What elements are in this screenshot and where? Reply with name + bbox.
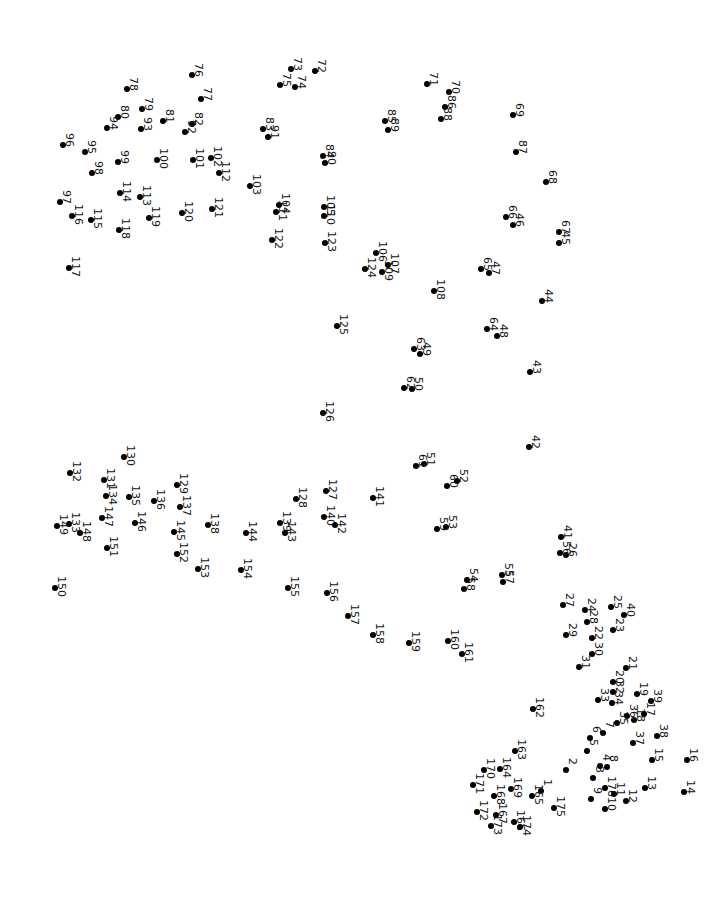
dot-number-label: 98 [93, 161, 104, 175]
dot-number-label: 134 [107, 484, 118, 505]
dot-number-label: 150 [56, 576, 67, 597]
dot-number-label: 122 [273, 228, 284, 249]
dot-number-label: 28 [588, 610, 599, 624]
dot-number-label: 66 [507, 205, 518, 219]
dot-number-label: 2 [567, 758, 578, 765]
puzzle-dot [584, 748, 590, 754]
dot-number-label: 87 [517, 140, 528, 154]
dot-number-label: 110 [325, 204, 336, 225]
dot-number-label: 81 [164, 109, 175, 123]
dot-number-label: 65 [482, 257, 493, 271]
dot-number-label: 72 [316, 59, 327, 73]
dot-number-label: 147 [103, 506, 114, 527]
dot-number-label: 62 [405, 376, 416, 390]
dot-number-label: 43 [531, 360, 542, 374]
puzzle-dot [600, 730, 606, 736]
dot-number-label: 137 [181, 495, 192, 516]
dot-number-label: 118 [120, 218, 131, 239]
dot-number-label: 36 [628, 704, 639, 718]
dot-number-label: 92 [186, 120, 197, 134]
dot-number-label: 161 [463, 642, 474, 663]
dot-number-label: 168 [495, 784, 506, 805]
dot-number-label: 59 [438, 517, 449, 531]
dot-number-label: 141 [374, 486, 385, 507]
puzzle-dot [597, 763, 603, 769]
dot-number-label: 67 [560, 220, 571, 234]
dot-number-label: 101 [194, 148, 205, 169]
dot-number-label: 163 [516, 739, 527, 760]
dot-number-label: 119 [150, 206, 161, 227]
puzzle-dot [588, 796, 594, 802]
dot-number-label: 97 [61, 190, 72, 204]
dot-number-label: 121 [213, 197, 224, 218]
dot-number-label: 148 [81, 521, 92, 542]
dot-number-label: 126 [324, 401, 335, 422]
dot-number-label: 78 [128, 77, 139, 91]
dot-number-label: 149 [58, 514, 69, 535]
dot-number-label: 155 [289, 576, 300, 597]
dot-number-label: 27 [564, 593, 575, 607]
dot-number-label: 38 [658, 724, 669, 738]
dot-number-label: 40 [625, 603, 636, 617]
dot-number-label: 29 [567, 623, 578, 637]
dot-number-label: 23 [614, 618, 625, 632]
dot-number-label: 30 [593, 642, 604, 656]
dot-number-label: 71 [428, 72, 439, 86]
dot-number-label: 114 [121, 181, 132, 202]
dot-number-label: 57 [504, 570, 515, 584]
dot-number-label: 169 [512, 777, 523, 798]
dot-number-label: 124 [366, 257, 377, 278]
dot-number-label: 79 [143, 97, 154, 111]
dot-number-label: 60 [448, 474, 459, 488]
dot-number-label: 58 [465, 577, 476, 591]
dot-number-label: 13 [646, 776, 657, 790]
dot-number-label: 116 [73, 204, 84, 225]
dot-number-label: 56 [561, 541, 572, 555]
dot-number-label: 89 [389, 118, 400, 132]
dot-number-label: 64 [488, 317, 499, 331]
dot-number-label: 125 [338, 314, 349, 335]
dot-number-label: 16 [688, 748, 699, 762]
dot-number-label: 12 [627, 789, 638, 803]
dot-number-label: 175 [555, 796, 566, 817]
dot-number-label: 10 [606, 797, 617, 811]
dot-number-label: 73 [292, 57, 303, 71]
dot-number-label: 8 [608, 755, 619, 762]
dot-number-label: 115 [92, 208, 103, 229]
dot-number-label: 96 [64, 133, 75, 147]
dot-number-label: 153 [199, 557, 210, 578]
dot-number-label: 19 [638, 682, 649, 696]
dot-number-label: 160 [449, 629, 460, 650]
dot-number-label: 158 [374, 623, 385, 644]
dot-number-label: 22 [593, 626, 604, 640]
puzzle-dot [604, 764, 610, 770]
dot-number-label: 31 [580, 655, 591, 669]
dot-number-label: 108 [435, 279, 446, 300]
dot-number-label: 154 [242, 558, 253, 579]
dot-number-label: 174 [521, 815, 532, 836]
dot-number-label: 39 [652, 689, 663, 703]
dot-number-label: 63 [415, 337, 426, 351]
dot-number-label: 138 [209, 513, 220, 534]
dot-number-label: 14 [685, 780, 696, 794]
dot-number-label: 113 [141, 185, 152, 206]
dot-number-label: 106 [377, 241, 388, 262]
dot-number-label: 68 [547, 170, 558, 184]
dot-number-label: 77 [202, 87, 213, 101]
puzzle-dot [563, 767, 569, 773]
dot-number-label: 44 [543, 289, 554, 303]
dot-number-label: 99 [119, 150, 130, 164]
dot-number-label: 151 [108, 536, 119, 557]
dot-number-label: 90 [326, 151, 337, 165]
dot-number-label: 103 [251, 174, 262, 195]
dot-number-label: 95 [86, 140, 97, 154]
dot-number-label: 117 [70, 256, 81, 277]
dot-number-label: 130 [125, 445, 136, 466]
dot-number-label: 159 [410, 631, 421, 652]
dot-number-label: 33 [599, 688, 610, 702]
puzzle-dot [590, 775, 596, 781]
dot-number-label: 157 [349, 604, 360, 625]
dot-number-label: 88 [442, 107, 453, 121]
dot-number-label: 128 [297, 487, 308, 508]
dot-number-label: 75 [281, 73, 292, 87]
